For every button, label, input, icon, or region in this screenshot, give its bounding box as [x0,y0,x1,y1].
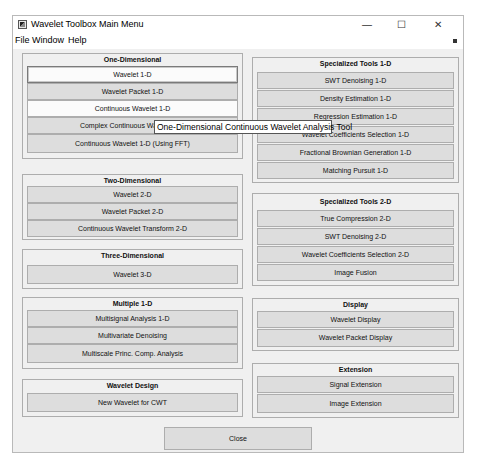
panel-title: Specialized Tools 1-D [253,58,458,70]
density-estimation-1d-button[interactable]: Density Estimation 1-D [257,90,454,107]
panel-three-dimensional: Three-Dimensional Wavelet 3-D [22,249,243,289]
wavelet-display-button[interactable]: Wavelet Display [257,311,454,328]
tooltip: One-Dimensional Continuous Wavelet Analy… [154,120,332,134]
swt-denoising-2d-button[interactable]: SWT Denoising 2-D [257,228,454,245]
image-extension-button[interactable]: Image Extension [257,394,454,413]
continuous-wavelet-transform-2d-button[interactable]: Continuous Wavelet Transform 2-D [27,220,238,237]
wavelet-1d-button[interactable]: Wavelet 1-D [27,66,238,83]
panel-title: Multiple 1-D [23,298,242,310]
signal-extension-button[interactable]: Signal Extension [257,376,454,393]
new-wavelet-for-cwt-button[interactable]: New Wavelet for CWT [27,393,238,412]
panel-display: Display Wavelet Display Wavelet Packet D… [252,298,459,351]
window-title: Wavelet Toolbox Main Menu [31,19,144,29]
wavelet-2d-button[interactable]: Wavelet 2-D [27,186,238,203]
panel-one-dimensional: One-Dimensional Wavelet 1-D Wavelet Pack… [22,53,243,159]
panel-title: One-Dimensional [23,54,242,66]
main-content: One-Dimensional Wavelet 1-D Wavelet Pack… [13,49,463,452]
wavelet-coefficients-selection-2d-button[interactable]: Wavelet Coefficients Selection 2-D [257,246,454,263]
wavelet-packet-1d-button[interactable]: Wavelet Packet 1-D [27,83,238,100]
swt-denoising-1d-button[interactable]: SWT Denoising 1-D [257,72,454,89]
image-fusion-button[interactable]: Image Fusion [257,264,454,281]
panel-title: Three-Dimensional [23,250,242,262]
menu-window[interactable]: Window [32,35,64,45]
true-compression-2d-button[interactable]: True Compression 2-D [257,210,454,227]
panel-specialized-tools-2d: Specialized Tools 2-D True Compression 2… [252,193,459,286]
dock-arrow-icon[interactable] [453,39,457,43]
panel-title: Display [253,299,458,311]
close-button[interactable]: Close [164,427,312,450]
panel-two-dimensional: Two-Dimensional Wavelet 2-D Wavelet Pack… [22,174,243,240]
wavelet-toolbox-window: Wavelet Toolbox Main Menu — ☐ ✕ File Win… [12,15,464,453]
panel-title: Extension [253,364,458,376]
menu-file[interactable]: File [15,35,30,45]
title-bar[interactable]: Wavelet Toolbox Main Menu — ☐ ✕ [13,16,463,34]
matlab-figure-icon [18,20,27,29]
fractional-brownian-generation-1d-button[interactable]: Fractional Brownian Generation 1-D [257,144,454,161]
panel-title: Wavelet Design [23,380,242,392]
panel-extension: Extension Signal Extension Image Extensi… [252,363,459,418]
panel-title: Specialized Tools 2-D [253,194,458,210]
menu-bar: File Window Help [13,34,463,49]
multivariate-denoising-button[interactable]: Multivariate Denoising [27,327,238,344]
wavelet-packet-display-button[interactable]: Wavelet Packet Display [257,329,454,347]
continuous-wavelet-1d-fft-button[interactable]: Continuous Wavelet 1-D (Using FFT) [27,134,238,153]
close-window-button[interactable]: ✕ [423,17,453,33]
wavelet-3d-button[interactable]: Wavelet 3-D [27,265,238,284]
matching-pursuit-1d-button[interactable]: Matching Pursuit 1-D [257,162,454,179]
multiscale-pca-button[interactable]: Multiscale Princ. Comp. Analysis [27,344,238,363]
wavelet-packet-2d-button[interactable]: Wavelet Packet 2-D [27,203,238,220]
panel-multiple-1d: Multiple 1-D Multisignal Analysis 1-D Mu… [22,297,243,369]
minimize-button[interactable]: — [352,17,382,33]
maximize-button[interactable]: ☐ [386,17,416,33]
multisignal-analysis-1d-button[interactable]: Multisignal Analysis 1-D [27,310,238,327]
menu-help[interactable]: Help [68,35,87,45]
panel-wavelet-design: Wavelet Design New Wavelet for CWT [22,379,243,417]
continuous-wavelet-1d-button[interactable]: Continuous Wavelet 1-D [27,100,238,117]
